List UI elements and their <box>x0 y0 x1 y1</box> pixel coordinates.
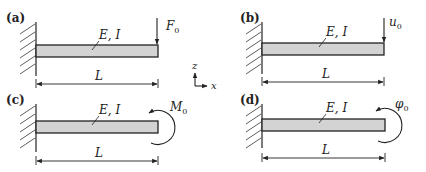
beam <box>262 43 384 55</box>
load-label: φ0 <box>395 97 409 113</box>
fixed-support-wall <box>246 104 262 148</box>
z-axis-label: z <box>191 60 198 71</box>
length-label: L <box>321 143 330 157</box>
panel-label-c: (c) <box>6 93 25 107</box>
load-label: F0 <box>165 19 179 35</box>
load-label: M0 <box>169 100 187 116</box>
length-label: L <box>94 69 103 83</box>
coordinate-axes: z x <box>191 60 217 91</box>
panel-label-b: (b) <box>240 11 260 25</box>
cantilever-beam-figure: (a) E, I F0 L z x (b) <box>0 0 426 172</box>
property-label: E, I <box>98 28 120 42</box>
panel-d: (d) E, I φ0 L <box>240 93 409 162</box>
x-axis-label: x <box>211 80 217 91</box>
beam <box>36 45 158 57</box>
panel-label-a: (a) <box>6 11 25 25</box>
property-label: E, I <box>98 103 120 117</box>
load-label: u0 <box>389 15 402 31</box>
fixed-support-wall <box>20 104 36 152</box>
panel-b: (b) E, I u0 L <box>240 11 402 86</box>
fixed-support-wall <box>246 22 262 74</box>
panel-a: (a) E, I F0 L <box>6 11 179 88</box>
panel-c: (c) E, I M0 L <box>6 93 187 165</box>
fixed-support-wall <box>20 22 36 76</box>
property-label: E, I <box>325 101 347 115</box>
property-label: E, I <box>325 25 347 39</box>
beam <box>36 121 158 133</box>
length-label: L <box>321 67 330 81</box>
panel-label-d: (d) <box>240 93 260 107</box>
length-label: L <box>94 146 103 160</box>
beam <box>262 119 385 131</box>
